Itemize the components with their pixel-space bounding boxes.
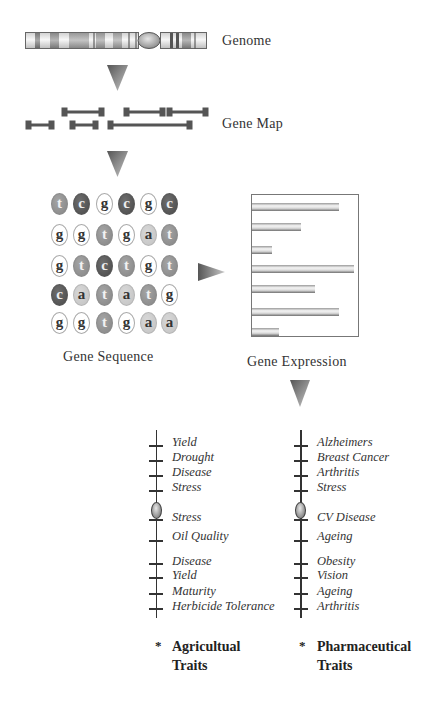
- expression-bar: [252, 328, 279, 336]
- nucleotide-t: t: [161, 224, 178, 246]
- arrow-right-icon: [198, 263, 225, 281]
- ladder-tick: [149, 460, 163, 462]
- nucleotide-g: g: [73, 312, 90, 334]
- ladder-tick: [294, 540, 308, 542]
- ladder-tick: [149, 519, 163, 521]
- nucleotide-g: g: [51, 255, 68, 277]
- expression-bar: [252, 246, 272, 254]
- nucleotide-t: t: [51, 193, 68, 215]
- gene-map-label: Gene Map: [222, 116, 283, 132]
- nucleotide-g: g: [140, 255, 157, 277]
- gene-expression-label: Gene Expression: [247, 354, 347, 370]
- pharmaceutical-traits-heading: Pharmaceutical Traits: [317, 637, 411, 675]
- nucleotide-a: a: [140, 312, 157, 334]
- nucleotide-c: c: [161, 193, 178, 215]
- nucleotide-g: g: [140, 193, 157, 215]
- nucleotide-g: g: [73, 224, 90, 246]
- ladder-line: [156, 430, 158, 618]
- ladder-tick: [149, 475, 163, 477]
- gene-sequence-label: Gene Sequence: [63, 349, 154, 365]
- pharmaceutical-heading-line1: Pharmaceutical: [317, 637, 411, 656]
- trait-label: Maturity: [172, 584, 216, 599]
- trait-label: Breast Cancer: [317, 450, 389, 465]
- trait-label: CV Disease: [317, 510, 375, 525]
- trait-label: Yield: [172, 435, 197, 450]
- trait-label: Herbicide Tolerance: [172, 599, 275, 614]
- pharmaceutical-heading-line2: Traits: [317, 656, 411, 675]
- marker-oval-icon: [295, 502, 306, 519]
- trait-label: Drought: [172, 450, 214, 465]
- marker-oval-icon: [151, 502, 162, 519]
- expression-bar: [252, 308, 339, 316]
- nucleotide-a: a: [161, 312, 178, 334]
- nucleotide-c: c: [51, 284, 68, 306]
- expression-bar: [252, 265, 354, 273]
- chromosome-icon: [25, 32, 207, 49]
- expression-bar: [252, 203, 339, 211]
- ladder-tick: [294, 608, 308, 610]
- trait-label: Arthritis: [317, 599, 359, 614]
- nucleotide-t: t: [96, 284, 113, 306]
- nucleotide-t: t: [140, 284, 157, 306]
- nucleotide-g: g: [161, 284, 178, 306]
- nucleotide-a: a: [140, 224, 157, 246]
- gene-map-diagram: [0, 100, 220, 135]
- nucleotide-c: c: [118, 193, 135, 215]
- ladder-tick: [294, 593, 308, 595]
- ladder-tick: [294, 445, 308, 447]
- nucleotide-t: t: [73, 255, 90, 277]
- nucleotide-c: c: [73, 193, 90, 215]
- agricultural-bullet: *: [155, 638, 162, 654]
- trait-label: Oil Quality: [172, 529, 229, 544]
- arrow-down-icon: [107, 65, 128, 91]
- nucleotide-t: t: [161, 255, 178, 277]
- ladder-tick: [149, 445, 163, 447]
- trait-label: Stress: [172, 480, 201, 495]
- agricultural-traits-heading: Agricultual Traits: [172, 637, 240, 675]
- trait-label: Disease: [172, 554, 212, 569]
- ladder-tick: [294, 475, 308, 477]
- expression-bar: [252, 285, 315, 293]
- ladder-tick: [149, 490, 163, 492]
- ladder-line: [300, 430, 302, 618]
- gene-expression-chart: [251, 194, 359, 337]
- nucleotide-g: g: [118, 312, 135, 334]
- trait-label: Disease: [172, 465, 212, 480]
- nucleotide-t: t: [96, 312, 113, 334]
- trait-label: Yield: [172, 568, 197, 583]
- nucleotide-g: g: [51, 312, 68, 334]
- trait-label: Alzheimers: [317, 435, 373, 450]
- nucleotide-t: t: [96, 224, 113, 246]
- ladder-tick: [294, 490, 308, 492]
- ladder-tick: [149, 563, 163, 565]
- ladder-tick: [149, 608, 163, 610]
- nucleotide-g: g: [96, 193, 113, 215]
- ladder-tick: [294, 460, 308, 462]
- nucleotide-g: g: [118, 224, 135, 246]
- trait-label: Obesity: [317, 554, 355, 569]
- nucleotide-a: a: [73, 284, 90, 306]
- ladder-tick: [149, 593, 163, 595]
- genome-label: Genome: [222, 33, 271, 49]
- pharmaceutical-bullet: *: [299, 638, 306, 654]
- nucleotide-c: c: [96, 255, 113, 277]
- trait-label: Stress: [317, 480, 346, 495]
- expression-bar: [252, 223, 301, 231]
- ladder-tick: [294, 519, 308, 521]
- ladder-tick: [294, 563, 308, 565]
- trait-label: Ageing: [317, 584, 352, 599]
- ladder-tick: [294, 577, 308, 579]
- trait-label: Arthritis: [317, 465, 359, 480]
- nucleotide-a: a: [118, 284, 135, 306]
- arrow-down-icon: [107, 151, 128, 177]
- ladder-tick: [149, 577, 163, 579]
- agricultural-heading-line2: Traits: [172, 656, 240, 675]
- arrow-down-icon: [290, 380, 310, 407]
- nucleotide-g: g: [51, 224, 68, 246]
- nucleotide-t: t: [118, 255, 135, 277]
- trait-label: Stress: [172, 510, 201, 525]
- trait-label: Ageing: [317, 529, 352, 544]
- ladder-tick: [149, 540, 163, 542]
- agricultural-heading-line1: Agricultual: [172, 637, 240, 656]
- trait-label: Vision: [317, 568, 348, 583]
